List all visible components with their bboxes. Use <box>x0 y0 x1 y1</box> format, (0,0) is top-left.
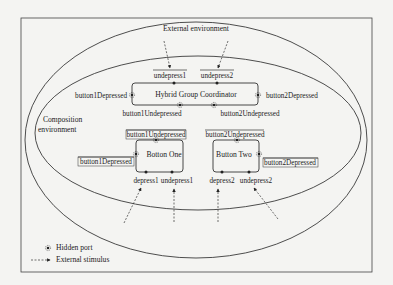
legend-external-stimulus-label: External stimulus <box>56 255 109 264</box>
composition-environment-label-1: Composition <box>43 115 82 124</box>
legend-hidden-port-label: Hidden port <box>56 243 93 252</box>
button-one-title: Botton One <box>146 150 182 159</box>
button-two-port-undepress2: undepress2 <box>240 177 273 185</box>
stimulus-arrow-depress1 <box>124 188 141 223</box>
stimulus-arrow-undepress2 <box>254 188 278 219</box>
external-environment-label: External environment <box>163 24 230 33</box>
stimulus-arrow-undepress1 <box>164 41 170 68</box>
stimulus-arrow-undepress2 <box>218 41 228 68</box>
legend: Hidden port External stimulus <box>31 243 109 264</box>
composition-diagram: External environment Composition environ… <box>0 0 393 285</box>
button-two-port-button2depressed: button2Depressed <box>264 159 316 167</box>
coordinator-port-undepress2: undepress2 <box>201 72 234 80</box>
composition-environment-label-2: environment <box>38 125 77 134</box>
button-two-title: Button Two <box>216 150 252 159</box>
coordinator-port-button2depressed: button2Depressed <box>266 92 318 100</box>
coordinator-port-button1undepressed: button1Undepressed <box>122 110 181 118</box>
button-two-port-button2undepressed: button2Undepressed <box>205 131 264 139</box>
button-two-port-depress2: depress2 <box>209 177 235 185</box>
external-environment-ellipse <box>25 22 367 258</box>
hidden-port-icon <box>45 245 50 250</box>
coordinator-port-undepress1: undepress1 <box>154 72 187 80</box>
hybrid-group-coordinator-title: Hybrid Group Coordinator <box>155 90 237 99</box>
composition-environment-ellipse <box>35 56 361 210</box>
button-one-port-depress1: depress1 <box>133 177 159 185</box>
button-one-port-undepress1: undepress1 <box>161 177 194 185</box>
button-one-port-button1undepressed: button1Undepressed <box>126 131 185 139</box>
coordinator-port-button2undepressed: button2Undepressed <box>220 110 279 118</box>
button-one-port-button1depressed: button1Depressed <box>80 158 132 166</box>
coordinator-port-button1depressed: button1Depressed <box>75 92 127 100</box>
